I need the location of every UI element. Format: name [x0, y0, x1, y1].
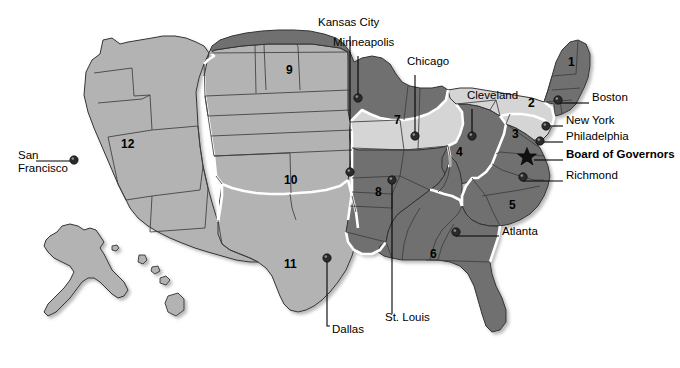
district-number-2: 2 — [528, 96, 535, 110]
district-number-1: 1 — [568, 55, 575, 69]
district-number-8: 8 — [375, 185, 382, 199]
city-dot-marker — [411, 132, 419, 140]
district-11-region — [218, 180, 358, 312]
city-label-boston: Boston — [592, 91, 628, 104]
city-label-st-louis: St. Louis — [385, 311, 430, 324]
city-dot-marker — [70, 156, 78, 164]
city-label-chicago: Chicago — [407, 55, 449, 68]
map-landmass-group — [44, 30, 590, 332]
federal-reserve-district-map: 123456789101112 San FranciscoKansas City… — [0, 0, 680, 368]
hawaii-island-4 — [160, 276, 170, 285]
hawaii-region — [112, 245, 119, 251]
city-dot-marker — [542, 122, 550, 130]
district-10-region — [204, 44, 352, 194]
city-dot-marker — [323, 254, 331, 262]
district-number-9: 9 — [286, 63, 293, 77]
district-number-5: 5 — [509, 198, 516, 212]
city-label-richmond: Richmond — [566, 169, 618, 182]
alaska-region — [44, 224, 128, 316]
city-dot-marker — [536, 137, 544, 145]
city-dot-marker — [346, 168, 354, 176]
district-1-region — [544, 40, 590, 116]
city-dot-marker — [519, 173, 527, 181]
city-label-philadelphia: Philadelphia — [566, 130, 629, 143]
district-number-11: 11 — [284, 257, 297, 271]
hawaii-island-2 — [138, 255, 147, 264]
city-label-dallas: Dallas — [332, 323, 364, 336]
city-label-minneapolis: Minneapolis — [333, 36, 394, 49]
hawaii-island-5 — [165, 293, 184, 316]
city-label-cleveland: Cleveland — [467, 89, 518, 102]
city-label-board-of-governors: Board of Governors — [566, 148, 675, 161]
hawaii-island-3 — [151, 266, 160, 274]
district-number-3: 3 — [512, 127, 519, 141]
city-dot-marker — [468, 132, 476, 140]
map-graphic — [0, 0, 680, 368]
city-label-atlanta: Atlanta — [502, 225, 538, 238]
district-number-6: 6 — [430, 247, 437, 261]
city-label-san-francisco: San Francisco — [18, 149, 68, 175]
district-number-4: 4 — [456, 145, 463, 159]
city-dot-marker — [452, 228, 460, 236]
district-number-10: 10 — [284, 173, 297, 187]
district-number-7: 7 — [394, 113, 401, 127]
city-dot-marker — [554, 96, 562, 104]
city-dot-marker — [354, 94, 362, 102]
city-label-kansas-city: Kansas City — [318, 16, 379, 29]
district-number-12: 12 — [121, 137, 134, 151]
city-dot-marker — [388, 176, 396, 184]
city-label-new-york: New York — [566, 114, 615, 127]
